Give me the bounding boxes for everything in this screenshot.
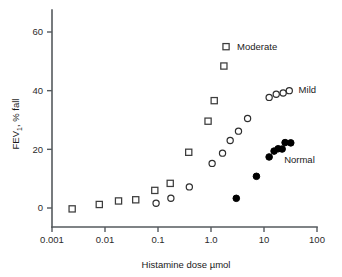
series-mild [153, 88, 292, 207]
x-axis-title: Histamine dose µmol [142, 259, 231, 270]
data-point-open-circle [227, 137, 233, 143]
x-tick-label: 0.01 [96, 234, 115, 245]
data-point-open-square [115, 198, 121, 204]
y-tick-label: 20 [32, 144, 43, 155]
data-point-open-circle [244, 115, 250, 121]
data-point-filled-circle [279, 146, 286, 153]
x-tick-label: 1.0 [204, 234, 217, 245]
y-tick-label: 40 [32, 85, 43, 96]
data-point-open-square [133, 197, 139, 203]
data-point-open-circle [273, 91, 279, 97]
series-label-moderate: Moderate [237, 41, 277, 52]
data-point-open-circle [186, 184, 192, 190]
x-tick-label: 100 [309, 234, 325, 245]
series-annotations: ModerateMildNormal [223, 41, 316, 165]
series-normal [233, 139, 294, 201]
scatter-plot-svg: 0204060 0.0010.010.11.010100 ModerateMil… [0, 0, 342, 277]
data-point-open-circle [168, 195, 174, 201]
data-point-open-circle [209, 160, 215, 166]
data-point-open-square [186, 149, 192, 155]
legend-marker-open-square [223, 44, 229, 50]
data-point-open-square [221, 63, 227, 69]
chart-container: 0204060 0.0010.010.11.010100 ModerateMil… [0, 0, 342, 277]
y-axis-ticks: 0204060 [32, 26, 52, 213]
x-tick-label: 0.001 [40, 234, 64, 245]
y-tick-label: 0 [38, 202, 43, 213]
data-point-open-square [69, 206, 75, 212]
x-tick-label: 0.1 [151, 234, 164, 245]
data-point-filled-circle [266, 154, 273, 161]
plot-axes [52, 10, 317, 227]
data-point-open-square [205, 118, 211, 124]
y-tick-label: 60 [32, 26, 43, 37]
data-point-open-square [167, 180, 173, 186]
data-point-open-square [96, 201, 102, 207]
x-axis-ticks: 0.0010.010.11.010100 [40, 227, 325, 245]
data-point-filled-circle [253, 173, 260, 180]
y-axis-title-main: FEV [10, 130, 21, 149]
data-point-open-circle [286, 88, 292, 94]
series-moderate [69, 63, 227, 212]
x-tick-label: 10 [259, 234, 270, 245]
y-axis-title: FEV1, % fall [10, 99, 23, 150]
data-point-filled-circle [287, 140, 294, 147]
data-point-open-circle [153, 200, 159, 206]
data-point-open-circle [266, 94, 272, 100]
data-point-open-square [211, 98, 217, 104]
data-point-filled-circle [233, 195, 240, 202]
data-point-open-circle [280, 90, 286, 96]
y-axis-title-group: FEV1, % fall [10, 99, 23, 150]
y-axis-title-tail: , % fall [10, 99, 21, 128]
series-label-mild: Mild [299, 84, 316, 95]
data-point-open-circle [219, 150, 225, 156]
data-points-layer [69, 63, 294, 212]
data-point-open-square [152, 187, 158, 193]
data-point-open-circle [235, 128, 241, 134]
series-label-normal: Normal [284, 154, 315, 165]
